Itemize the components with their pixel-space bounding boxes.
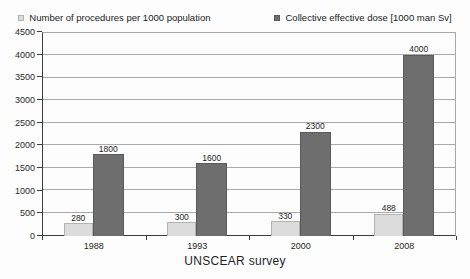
y-tick-label: 3000 <box>1 96 35 105</box>
y-tick <box>37 144 42 145</box>
y-tick <box>37 122 42 123</box>
y-tick-label: 2500 <box>1 118 35 127</box>
y-tick-label: 1000 <box>1 186 35 195</box>
y-tick-label: 500 <box>1 209 35 218</box>
y-tick <box>37 212 42 213</box>
y-tick <box>37 99 42 100</box>
bar-groups: 2801800300160033023004884000 <box>42 32 456 236</box>
bar-dose-2008: 4000 <box>403 55 434 236</box>
legend-swatch-icon <box>274 15 280 21</box>
y-tick-label: 4000 <box>1 50 35 59</box>
bar-procedures-2000: 330 <box>271 221 300 236</box>
x-labels: 1988199320002008 <box>42 241 456 251</box>
bar-value-label: 2300 <box>306 122 325 131</box>
legend-label: Number of procedures per 1000 population <box>29 12 210 23</box>
y-tick-label: 2000 <box>1 141 35 150</box>
bar-value-label: 280 <box>71 214 85 223</box>
bar-group-2000: 3302300 <box>249 32 353 236</box>
x-category-label: 1988 <box>42 241 146 251</box>
bar-value-label: 4000 <box>409 45 428 54</box>
bar-value-label: 330 <box>278 212 292 221</box>
legend-item-1: Collective effective dose [1000 man Sv] <box>274 12 451 23</box>
x-tick <box>42 236 43 240</box>
y-tick <box>37 190 42 191</box>
plot-row: 2801800300160033023004884000 05001000150… <box>42 32 456 236</box>
legend: Number of procedures per 1000 population… <box>0 0 470 26</box>
y-tick-label: 3500 <box>1 73 35 82</box>
bar-value-label: 488 <box>382 204 396 213</box>
y-tick-label: 0 <box>1 232 35 241</box>
bar-value-label: 1800 <box>99 145 118 154</box>
bar-dose-2000: 2300 <box>300 132 331 236</box>
bar-group-1993: 3001600 <box>146 32 250 236</box>
x-axis-title: UNSCEAR survey <box>0 254 470 268</box>
legend-swatch-icon <box>18 15 24 21</box>
y-tick <box>37 167 42 168</box>
x-tick <box>353 236 354 240</box>
x-tick <box>146 236 147 240</box>
x-category-label: 1993 <box>146 241 250 251</box>
y-tick <box>37 54 42 55</box>
x-category-label: 2008 <box>353 241 457 251</box>
y-tick-label: 1500 <box>1 164 35 173</box>
x-tick <box>456 236 457 240</box>
bar-dose-1988: 1800 <box>93 154 124 236</box>
bar-group-1988: 2801800 <box>42 32 146 236</box>
y-tick <box>37 31 42 32</box>
x-tick <box>249 236 250 240</box>
bar-procedures-1988: 280 <box>64 223 93 236</box>
bar-dose-1993: 1600 <box>196 163 227 236</box>
legend-item-0: Number of procedures per 1000 population <box>18 12 210 23</box>
legend-label: Collective effective dose [1000 man Sv] <box>285 12 451 23</box>
bar-chart: Number of procedures per 1000 population… <box>0 0 470 279</box>
x-category-label: 2000 <box>249 241 353 251</box>
bar-procedures-2008: 488 <box>374 214 403 236</box>
bar-value-label: 1600 <box>202 154 221 163</box>
bar-value-label: 300 <box>175 213 189 222</box>
bar-procedures-1993: 300 <box>167 222 196 236</box>
y-tick <box>37 76 42 77</box>
y-tick-label: 4500 <box>1 28 35 37</box>
bar-group-2008: 4884000 <box>353 32 457 236</box>
